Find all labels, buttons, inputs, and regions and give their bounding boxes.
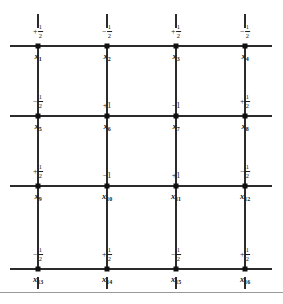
node-value-x8: +12 [240, 95, 250, 110]
node-value-denominator-x9: 2 [38, 172, 43, 179]
node-value-numerator-x5: 1 [38, 94, 43, 102]
node-value-x9: +12 [33, 165, 43, 180]
grid-line-horizontal-row-2 [10, 115, 272, 117]
node-marker-x1 [36, 44, 41, 49]
node-value-integer-x6: 1 [107, 102, 111, 110]
node-marker-x2 [105, 44, 110, 49]
node-value-fraction-x5: 12 [38, 94, 43, 109]
node-label-x12: x12 [240, 192, 250, 201]
node-label-x11: x11 [171, 192, 181, 201]
node-label-x4: x4 [241, 52, 248, 61]
node-label-x1: x1 [34, 52, 41, 61]
node-marker-x10 [105, 184, 110, 189]
node-label-subscript-x14: 14 [106, 279, 112, 285]
grid-line-horizontal-row-3 [10, 185, 272, 187]
node-value-x12: −12 [240, 165, 250, 180]
node-value-x13: −12 [33, 248, 43, 263]
node-value-numerator-x13: 1 [38, 247, 43, 255]
node-label-subscript-x16: 16 [244, 279, 250, 285]
node-value-denominator-x13: 2 [38, 255, 43, 262]
node-value-x11: +1 [172, 172, 181, 180]
node-label-subscript-x3: 3 [177, 56, 180, 62]
node-label-subscript-x4: 4 [246, 56, 249, 62]
node-value-numerator-x9: 1 [38, 164, 43, 172]
node-value-denominator-x15: 2 [176, 255, 181, 262]
node-marker-x7 [174, 114, 179, 119]
node-value-numerator-x4: 1 [245, 24, 250, 32]
node-value-fraction-x4: 12 [245, 24, 250, 39]
node-value-numerator-x8: 1 [245, 94, 250, 102]
node-value-denominator-x4: 2 [245, 32, 250, 39]
node-label-subscript-x12: 12 [244, 196, 250, 202]
node-value-denominator-x8: 2 [245, 102, 250, 109]
node-marker-x3 [174, 44, 179, 49]
node-marker-x11 [174, 184, 179, 189]
node-marker-x9 [36, 184, 41, 189]
node-marker-x13 [36, 267, 41, 272]
node-value-denominator-x1: 2 [38, 32, 43, 39]
node-marker-x16 [243, 267, 248, 272]
node-value-denominator-x2: 2 [107, 32, 112, 39]
node-label-x9: x9 [34, 192, 41, 201]
node-value-x16: +12 [240, 248, 250, 263]
node-value-x4: −12 [240, 25, 250, 40]
node-label-x15: x15 [171, 275, 181, 284]
node-value-numerator-x15: 1 [176, 247, 181, 255]
node-value-x2: −12 [102, 25, 112, 40]
node-value-x1: +12 [33, 25, 43, 40]
grid-line-horizontal-row-1 [10, 45, 272, 47]
node-value-fraction-x13: 12 [38, 247, 43, 262]
node-value-integer-x7: 1 [176, 102, 180, 110]
node-value-numerator-x14: 1 [107, 247, 112, 255]
node-value-x14: +12 [102, 248, 112, 263]
node-value-integer-x10: 1 [107, 172, 111, 180]
node-marker-x6 [105, 114, 110, 119]
node-value-x5: −12 [33, 95, 43, 110]
node-label-x14: x14 [102, 275, 112, 284]
node-value-x6: +1 [103, 102, 112, 110]
node-marker-x14 [105, 267, 110, 272]
node-label-x13: x13 [33, 275, 43, 284]
node-value-fraction-x3: 12 [176, 24, 181, 39]
node-label-subscript-x1: 1 [39, 56, 42, 62]
node-value-fraction-x16: 12 [245, 247, 250, 262]
node-value-x3: +12 [171, 25, 181, 40]
node-label-x8: x8 [241, 122, 248, 131]
node-label-subscript-x10: 10 [106, 196, 112, 202]
node-marker-x5 [36, 114, 41, 119]
node-value-fraction-x8: 12 [245, 94, 250, 109]
node-label-subscript-x11: 11 [175, 196, 181, 202]
bottom-rule [0, 292, 283, 293]
node-label-subscript-x15: 15 [175, 279, 181, 285]
node-value-x7: −1 [172, 102, 181, 110]
node-label-subscript-x13: 13 [37, 279, 43, 285]
grid-line-horizontal-row-4 [10, 268, 272, 270]
node-label-x5: x5 [34, 122, 41, 131]
node-value-fraction-x14: 12 [107, 247, 112, 262]
node-marker-x15 [174, 267, 179, 272]
node-value-denominator-x14: 2 [107, 255, 112, 262]
node-label-x2: x2 [103, 52, 110, 61]
node-label-subscript-x5: 5 [39, 126, 42, 132]
node-marker-x12 [243, 184, 248, 189]
node-value-fraction-x9: 12 [38, 164, 43, 179]
node-label-subscript-x2: 2 [108, 56, 111, 62]
node-label-subscript-x8: 8 [246, 126, 249, 132]
node-marker-x4 [243, 44, 248, 49]
node-value-integer-x11: 1 [176, 172, 180, 180]
node-value-numerator-x3: 1 [176, 24, 181, 32]
node-value-x10: −1 [103, 172, 112, 180]
node-value-fraction-x1: 12 [38, 24, 43, 39]
node-value-numerator-x16: 1 [245, 247, 250, 255]
node-label-subscript-x9: 9 [39, 196, 42, 202]
node-label-subscript-x7: 7 [177, 126, 180, 132]
node-label-x16: x16 [240, 275, 250, 284]
node-marker-x8 [243, 114, 248, 119]
node-label-x7: x7 [172, 122, 179, 131]
node-value-fraction-x15: 12 [176, 247, 181, 262]
node-value-denominator-x16: 2 [245, 255, 250, 262]
node-value-denominator-x5: 2 [38, 102, 43, 109]
node-value-denominator-x12: 2 [245, 172, 250, 179]
node-label-subscript-x6: 6 [108, 126, 111, 132]
node-value-x15: −12 [171, 248, 181, 263]
